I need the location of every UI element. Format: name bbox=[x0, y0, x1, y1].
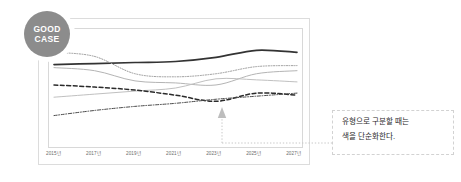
x-tick: 2017년 bbox=[86, 150, 101, 162]
series-line bbox=[54, 78, 297, 97]
annotation-callout: 유형으로 구분할 때는 색을 단순화한다. bbox=[332, 110, 454, 155]
x-tick: 2015년 bbox=[46, 150, 61, 162]
x-tick: 2019년 bbox=[126, 150, 141, 162]
badge-line-1: GOOD bbox=[33, 24, 60, 34]
badge-line-2: CASE bbox=[35, 34, 60, 44]
x-tick: 2025년 bbox=[246, 150, 261, 162]
x-tick: 2021년 bbox=[166, 150, 181, 162]
callout-line-2: 색을 단순화한다. bbox=[342, 132, 445, 142]
good-case-badge-inner: GOOD CASE bbox=[24, 11, 70, 57]
x-axis-labels: 2015년 2017년 2019년 2021년 2023년 2025년 2027… bbox=[48, 150, 303, 162]
good-case-badge: GOOD CASE bbox=[19, 6, 75, 62]
x-tick: 2027년 bbox=[286, 150, 301, 162]
callout-line-1: 유형으로 구분할 때는 bbox=[342, 117, 445, 127]
figure-stage: 2015년 2017년 2019년 2021년 2023년 2025년 2027… bbox=[0, 0, 461, 182]
x-tick: 2023년 bbox=[206, 150, 221, 162]
line-chart-series bbox=[48, 28, 303, 148]
series-line bbox=[54, 93, 297, 115]
series-line bbox=[54, 50, 297, 64]
series-line bbox=[54, 85, 297, 101]
